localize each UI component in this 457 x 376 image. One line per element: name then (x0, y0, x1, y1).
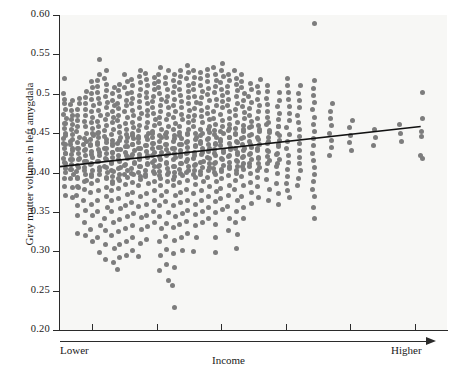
scatter-plot-figure: 0.200.250.300.350.400.450.50.550.60 Gray… (0, 0, 457, 376)
income-direction-arrow-line (60, 341, 428, 342)
trend-line (0, 0, 457, 376)
income-direction-arrow-head (426, 337, 436, 345)
x-axis-low-label: Lower (60, 344, 89, 356)
x-axis-high-label: Higher (391, 344, 422, 356)
y-axis-title: Gray matter volume in left amygdala (23, 39, 35, 289)
